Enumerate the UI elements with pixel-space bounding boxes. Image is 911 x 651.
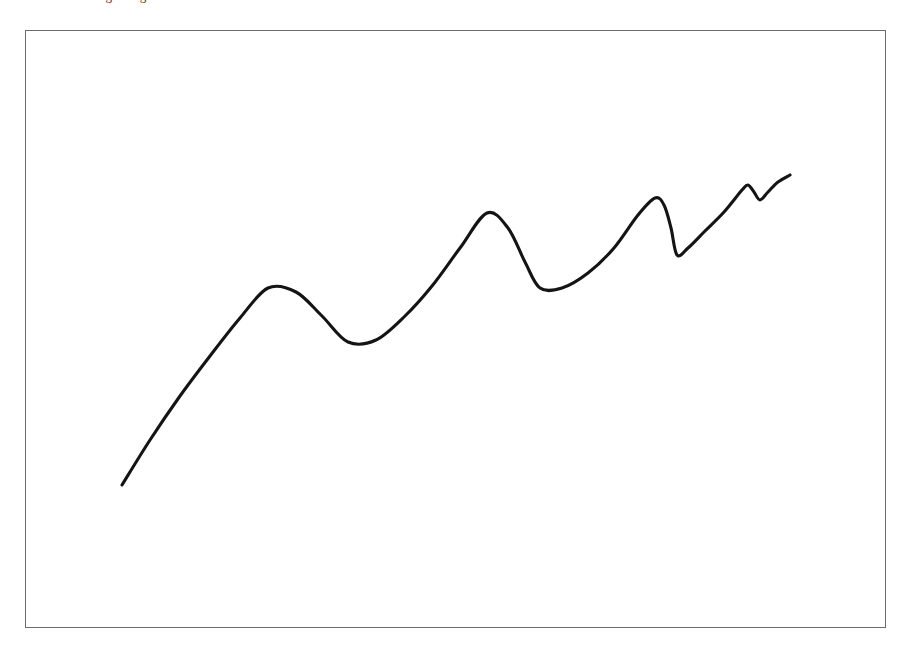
figure-frame: [25, 30, 886, 628]
clipped-caption-text: a curve showing rising trend with oscill…: [24, 0, 664, 3]
